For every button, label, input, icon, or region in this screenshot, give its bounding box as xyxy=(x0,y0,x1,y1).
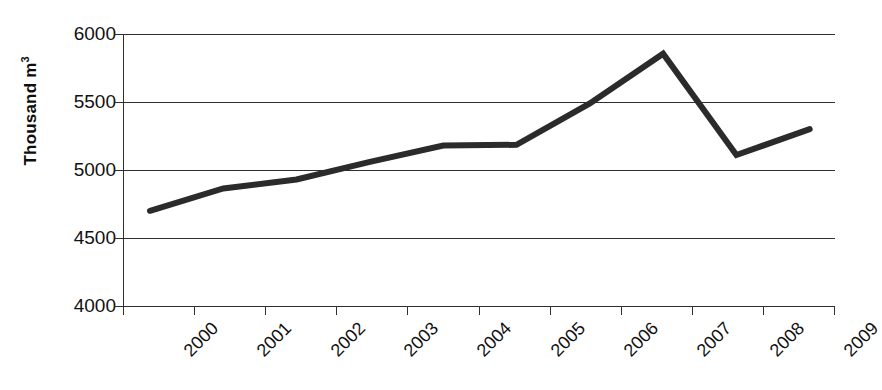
series-line-volume xyxy=(150,54,810,211)
